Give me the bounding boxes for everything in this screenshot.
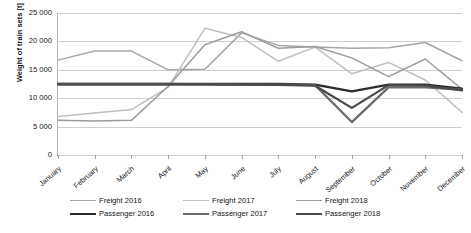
y-axis-title: Weight of train sets [t] <box>15 0 24 108</box>
x-tick-label: January <box>21 164 63 202</box>
x-tick <box>242 155 243 159</box>
x-tick <box>315 155 316 159</box>
plot-area <box>58 13 462 155</box>
y-tick-label: 5 000 <box>6 122 52 131</box>
legend-item-freight-2016[interactable]: Freight 2016 <box>70 196 183 205</box>
y-tick-label: 15 000 <box>6 65 52 74</box>
legend-label-freight-2017: Freight 2017 <box>212 196 255 205</box>
legend-label-freight-2016: Freight 2016 <box>99 196 142 205</box>
x-tick <box>205 155 206 159</box>
y-tick-label: 10 000 <box>6 93 52 102</box>
legend-swatch-passenger-2017 <box>183 213 209 215</box>
x-tick <box>425 155 426 159</box>
y-tick-label: 0 <box>6 150 52 159</box>
legend-item-freight-2017[interactable]: Freight 2017 <box>183 196 296 205</box>
legend-item-freight-2018[interactable]: Freight 2018 <box>296 196 409 205</box>
x-tick <box>58 155 59 159</box>
legend-swatch-freight-2016 <box>70 200 96 201</box>
x-tick-label: December <box>425 164 467 202</box>
line-chart: Weight of train sets [t] 25 00020 00015 … <box>0 0 471 233</box>
series-lines <box>58 13 462 155</box>
x-tick <box>95 155 96 159</box>
series-line-freight-2016 <box>58 33 462 70</box>
legend-row-passenger: Passenger 2016 Passenger 2017 Passenger … <box>70 207 410 220</box>
x-tick <box>389 155 390 159</box>
legend-item-passenger-2016[interactable]: Passenger 2016 <box>70 209 183 218</box>
legend-item-passenger-2017[interactable]: Passenger 2017 <box>183 209 296 218</box>
legend-swatch-freight-2018 <box>296 200 322 201</box>
x-tick <box>168 155 169 159</box>
legend-row-freight: Freight 2016 Freight 2017 Freight 2018 <box>70 194 410 207</box>
legend-item-passenger-2018[interactable]: Passenger 2018 <box>296 209 409 218</box>
series-line-freight-2017 <box>58 28 462 116</box>
legend-swatch-passenger-2018 <box>296 213 322 215</box>
x-tick <box>462 155 463 159</box>
legend-label-passenger-2017: Passenger 2017 <box>212 209 267 218</box>
x-tick <box>278 155 279 159</box>
y-tick-label: 25 000 <box>6 8 52 17</box>
series-line-passenger-2017 <box>58 84 462 122</box>
legend-swatch-passenger-2016 <box>70 213 96 215</box>
y-tick-label: 20 000 <box>6 36 52 45</box>
x-tick <box>131 155 132 159</box>
legend-swatch-freight-2017 <box>183 200 209 201</box>
legend-label-freight-2018: Freight 2018 <box>325 196 368 205</box>
legend-label-passenger-2016: Passenger 2016 <box>99 209 154 218</box>
gridline <box>58 155 462 156</box>
legend-label-passenger-2018: Passenger 2018 <box>325 209 380 218</box>
x-tick <box>352 155 353 159</box>
chart-legend: Freight 2016 Freight 2017 Freight 2018 P… <box>70 194 410 220</box>
